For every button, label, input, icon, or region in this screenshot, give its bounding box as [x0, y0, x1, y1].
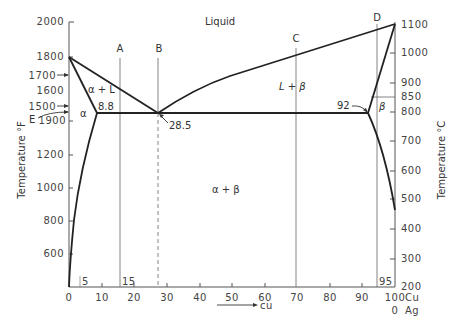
tick-1100C: 1100	[401, 19, 428, 30]
tick-1500F: 1500	[29, 101, 56, 112]
tick-1600F: 1600	[37, 85, 64, 96]
tick-x-0: 0	[66, 292, 73, 303]
annotation-28-5: 28.5	[169, 120, 191, 131]
liquidus-right	[158, 24, 395, 113]
tick-x-20: 20	[127, 292, 141, 303]
tick-1000F: 1000	[37, 182, 64, 193]
label-A: A	[117, 43, 124, 54]
left-axis-ticks: 2000 1800 1700 1600 1500 1900 1200 1000 …	[29, 16, 73, 259]
phase-diagram: 2000 1800 1700 1600 1500 1900 1200 1000 …	[0, 0, 464, 329]
region-alpha-plus-liquid: α + L	[88, 84, 115, 95]
region-liquid: Liquid	[205, 16, 235, 27]
solvus-right	[368, 113, 395, 210]
solidus-right	[368, 24, 395, 113]
arrow-28-5-icon	[159, 114, 168, 123]
comp-marker-15: 15	[122, 276, 136, 287]
arrow-1500-icon	[57, 104, 69, 108]
tick-500C: 500	[401, 193, 422, 204]
eutectic-label-E: E	[29, 114, 35, 125]
tick-1000C: 1000	[401, 47, 428, 58]
tick-600C: 600	[401, 165, 422, 176]
right-axis-label: Temperature °C	[436, 121, 447, 201]
tick-x-30: 30	[160, 292, 174, 303]
label-B: B	[156, 43, 163, 54]
tick-1700F: 1700	[29, 70, 56, 81]
composition-lines: A B C D	[117, 12, 395, 287]
solvus-left	[69, 113, 97, 287]
label-C: C	[293, 33, 300, 44]
tick-x-70: 70	[290, 292, 304, 303]
tick-600F: 600	[43, 248, 64, 259]
tick-1900F: 1900	[39, 115, 66, 126]
region-liquid-plus-beta: L + β	[279, 81, 306, 92]
tick-300C: 300	[401, 253, 422, 264]
tick-2000F: 2000	[37, 16, 64, 27]
cu-arrow-label: cu	[260, 300, 273, 311]
tick-900C: 900	[401, 77, 422, 88]
arrow-1700-icon	[57, 73, 69, 77]
tick-850C: 850	[401, 91, 422, 102]
tick-x-40: 40	[193, 292, 207, 303]
left-axis-label: Temperature °F	[16, 121, 27, 200]
phase-boundaries	[69, 24, 395, 287]
tick-800C: 800	[401, 106, 422, 117]
tick-1200F: 1200	[37, 149, 64, 160]
ag-label: Ag	[405, 305, 419, 316]
tick-x-90: 90	[355, 292, 369, 303]
cu-label: Cu	[405, 292, 419, 303]
tick-x-10: 10	[95, 292, 109, 303]
region-alpha: α	[80, 108, 87, 119]
region-alpha-plus-beta: α + β	[212, 184, 240, 195]
tick-x-80: 80	[323, 292, 337, 303]
cu-arrow-icon	[217, 303, 258, 307]
ag-zero-label: 0	[392, 305, 399, 316]
tick-400C: 400	[401, 223, 422, 234]
tick-200C: 200	[401, 281, 422, 292]
region-beta: β	[378, 101, 386, 112]
annotation-8-8: 8.8	[98, 101, 114, 112]
tick-x-100: 100	[385, 292, 406, 303]
comp-marker-5: 5	[82, 276, 89, 287]
annotation-92: 92	[337, 100, 350, 111]
right-axis-ticks: 1100 1000 900 850 800 700 600 500 400 30…	[390, 19, 428, 292]
comp-marker-95: 95	[379, 276, 393, 287]
tick-700C: 700	[401, 135, 422, 146]
label-D: D	[373, 12, 381, 23]
tick-1800F: 1800	[37, 51, 64, 62]
tick-x-50: 50	[225, 292, 239, 303]
bottom-axis-ticks: 0 10 20 30 40 50 60 70 80 90 100 Cu 0 Ag…	[66, 276, 420, 316]
tick-800F: 800	[43, 215, 64, 226]
